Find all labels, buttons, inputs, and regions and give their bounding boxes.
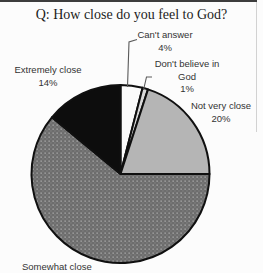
label-dont-believe-line2: God [147,71,227,84]
label-not-very-close-pct: 20% [181,113,261,126]
pie-chart-figure: Q: How close do you feel to God? Can't a… [0,0,263,273]
label-extremely-close: Extremely close 14% [8,64,88,89]
label-dont-believe-line1: Don't believe in [147,58,227,71]
label-extremely-close-pct: 14% [8,77,88,90]
label-cant-answer: Can't answer 4% [128,29,202,54]
label-cant-answer-text: Can't answer [128,29,202,42]
label-not-very-close: Not very close 20% [181,100,261,125]
label-cant-answer-pct: 4% [128,42,202,55]
label-extremely-close-text: Extremely close [8,64,88,77]
label-somewhat-close-text: Somewhat close [22,261,122,273]
label-not-very-close-text: Not very close [181,100,261,113]
label-dont-believe-pct: 1% [147,83,227,96]
label-dont-believe: Don't believe in God 1% [147,58,227,96]
label-somewhat-close: Somewhat close [22,261,122,273]
